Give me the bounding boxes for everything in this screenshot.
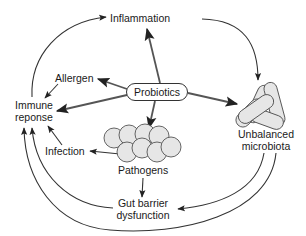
microbiota-line2: microbiota <box>236 140 296 152</box>
gut-barrier-line2: dysfunction <box>114 209 172 221</box>
node-immune-response: Immune reponse <box>12 99 56 123</box>
gut-barrier-line1: Gut barrier <box>114 197 172 209</box>
node-gut-barrier-dysfunction: Gut barrier dysfunction <box>114 197 172 221</box>
edge-probiotics-to-allergen <box>98 79 127 89</box>
node-unbalanced-microbiota: Unbalanced microbiota <box>236 128 296 152</box>
node-allergen: Allergen <box>55 72 94 84</box>
edge-probiotics-to-immune <box>57 95 127 111</box>
node-pathogens: Pathogens <box>118 164 168 176</box>
node-infection: Infection <box>45 145 85 157</box>
microbiota-cluster-icon <box>233 81 286 131</box>
edge-gutbarrier-to-immune <box>32 128 113 208</box>
microbiota-line1: Unbalanced <box>236 128 296 140</box>
immune-response-line2: reponse <box>12 111 56 123</box>
edge-immune-to-inflammation <box>32 17 106 97</box>
probiotics-label: Probiotics <box>134 86 180 98</box>
edge-probiotics-to-pathogens <box>149 101 155 128</box>
edge-pathogens-to-infection <box>90 151 120 154</box>
edge-pathogens-to-gutbarrier <box>142 178 143 197</box>
edge-probiotics-to-inflammation <box>147 29 160 83</box>
edge-allergen-to-immune <box>45 84 58 98</box>
node-inflammation: Inflammation <box>110 12 170 24</box>
edge-infection-to-immune <box>48 126 62 145</box>
edge-microbiota-to-gutbarrier <box>178 153 264 209</box>
edge-inflammation-to-microbiota <box>202 19 258 80</box>
edge-probiotics-to-microbiota <box>188 93 237 104</box>
diagram-canvas: Probiotics Inflammation Allergen Immune … <box>0 0 306 236</box>
node-probiotics: Probiotics <box>126 83 188 101</box>
pathogens-cluster-icon <box>104 124 181 162</box>
immune-response-line1: Immune <box>12 99 56 111</box>
